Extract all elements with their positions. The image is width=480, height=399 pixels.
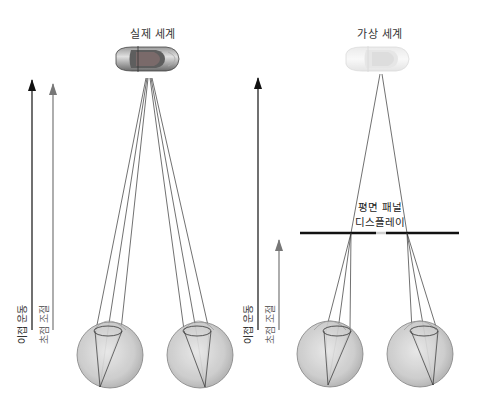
virtual-left-eye-icon (297, 321, 363, 387)
diagram-stage: 실제 세계 가상 세계 이접 운동 초점 조절 이접 운동 초점 조절 평면 패… (0, 0, 480, 399)
virtual-car-icon (346, 46, 409, 72)
real-world-panel (28, 46, 233, 388)
display-label-line2: 디스플레이 (352, 215, 408, 230)
real-world-title: 실제 세계 (130, 25, 176, 41)
real-right-eye-icon (167, 321, 233, 388)
real-accommodation-arrowhead-icon (49, 83, 57, 95)
real-left-eye-icon (77, 321, 143, 388)
real-car-icon (116, 46, 179, 72)
virtual-right-eye-icon (387, 321, 453, 387)
display-label-line1: 평면 패널 (352, 200, 408, 215)
flat-panel-display-label: 평면 패널 디스플레이 (352, 200, 408, 230)
virtual-vergence-arrowhead-icon (254, 77, 262, 89)
virtual-accommodation-label: 초점 조절 (262, 305, 277, 344)
virtual-accommodation-arrowhead-icon (275, 239, 283, 251)
real-accommodation-label: 초점 조절 (36, 305, 51, 344)
virtual-vergence-label: 이접 운동 (240, 305, 255, 344)
real-vergence-arrowhead-icon (28, 79, 36, 91)
virtual-world-title: 가상 세계 (357, 25, 403, 41)
real-vergence-label: 이접 운동 (14, 305, 29, 344)
